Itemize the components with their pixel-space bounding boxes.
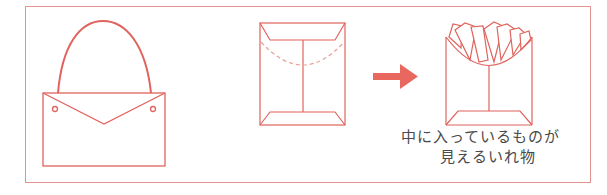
fries xyxy=(449,22,531,62)
arrow-right-icon xyxy=(373,64,418,89)
caption-line-1: 中に入っているものが xyxy=(401,130,560,145)
envelope-illustration xyxy=(260,23,345,125)
fries-holder-illustration xyxy=(446,22,532,125)
bag-handle xyxy=(58,21,151,93)
envelope-bottom-flap xyxy=(260,112,345,125)
caption-line-2: 見えるいれ物 xyxy=(440,150,536,165)
bag-body xyxy=(43,93,165,166)
envelope-top-flap xyxy=(260,23,345,40)
handbag-illustration xyxy=(43,21,165,166)
fries-holder-bottom-flap xyxy=(446,111,532,125)
